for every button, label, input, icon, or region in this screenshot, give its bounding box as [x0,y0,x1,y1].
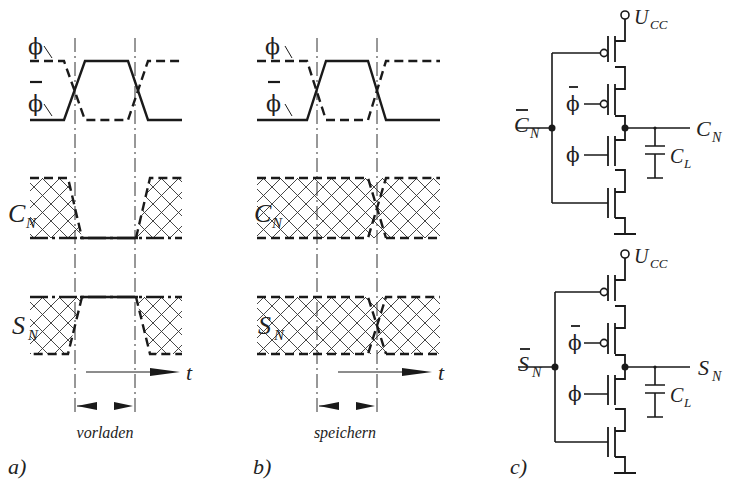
phi-bar-leader [285,104,292,116]
panel-label-c: c) [510,454,527,479]
input-node [549,125,556,132]
output-label-sub: N [711,130,722,145]
supply-label-sub: CC [650,17,668,32]
time-label: t [438,360,445,385]
sn-label-sub: N [273,327,285,343]
supply-terminal-icon [621,250,629,258]
panel-label-a: a) [8,454,26,479]
time-arrowhead-icon [402,368,432,376]
gate-phi-bar-label: ϕ [568,331,582,355]
gate-phi-label: ϕ [566,143,580,167]
circuit-sn: U CC S N ϕ ϕ S N C L [518,245,722,473]
phi-leader [285,46,292,58]
phi-bar-waveform [257,61,440,120]
panel-a: ϕ ϕ C N S N t vorladen [8,34,193,479]
phi-waveform [257,61,440,120]
interval-arrow-right-icon [114,402,133,410]
panel-label-b: b) [253,454,271,479]
cap-label-sub: L [683,395,691,410]
phi-bar-waveform [30,61,182,120]
sn-label: S [258,311,271,340]
output-label: C [696,116,711,141]
interval-arrow-left-icon [319,402,339,410]
output-label-sub: N [711,369,722,384]
input-label: S [518,351,529,376]
interval-caption: speichern [314,424,376,442]
phi-bar-label: ϕ [266,91,281,116]
output-label: S [698,355,709,380]
cap-label: C [670,145,684,167]
cap-label-sub: L [683,156,691,171]
phi-leader [44,46,52,58]
phi-label: ϕ [28,34,43,59]
cn-label: C [254,199,272,228]
gate-phi-bar-label: ϕ [566,92,580,116]
input-label-sub: N [531,365,542,380]
sn-label-sub: N [27,327,39,343]
panel-c: U CC C N ϕ ϕ C N C L [510,6,722,479]
supply-label-sub: CC [650,256,668,271]
input-label-sub: N [529,126,540,141]
pmos-bubble-icon [600,288,607,295]
supply-label: U [634,245,650,267]
pmos-bubble-icon [600,100,607,107]
interval-caption: vorladen [77,424,134,441]
supply-terminal-icon [621,11,629,19]
cn-label-sub: N [25,215,37,231]
time-label: t [186,360,193,385]
phi-bar-label: ϕ [28,91,43,116]
circuit-cn: U CC C N ϕ ϕ C N C L [514,6,722,234]
cn-label: C [8,199,26,228]
input-label: C [514,112,529,137]
input-node [552,364,559,371]
interval-arrow-right-icon [356,402,375,410]
cap-label: C [670,384,684,406]
time-arrowhead-icon [150,368,180,376]
sn-label: S [12,311,25,340]
interval-arrow-left-icon [77,402,97,410]
precharge-timing-diagram: ϕ ϕ C N S N t vorladen [0,0,735,492]
phi-bar-leader [44,104,52,116]
panel-b: ϕ ϕ C N S N t speichern b) [253,34,445,479]
gate-phi-label: ϕ [568,382,582,406]
pmos-bubble-icon [600,49,607,56]
phi-waveform [30,61,182,120]
cn-label-sub: N [271,215,283,231]
pmos-bubble-icon [600,339,607,346]
supply-label: U [634,6,650,28]
phi-label: ϕ [265,34,280,59]
